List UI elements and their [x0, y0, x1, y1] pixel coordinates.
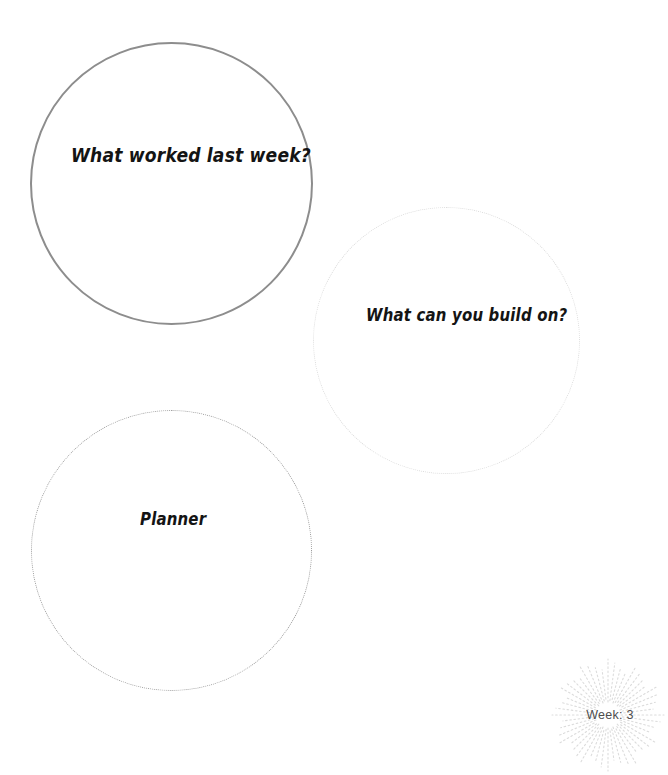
bubble-label-planner: Planner [140, 509, 206, 529]
bubble-label-what-worked-last-week: What worked last week? [71, 144, 311, 167]
bubble-label-what-can-you-build-on: What can you build on? [366, 305, 567, 325]
bubble-what-can-you-build-on[interactable] [313, 207, 580, 474]
bubble-planner[interactable] [31, 410, 312, 691]
week-badge[interactable]: Week: 3 [548, 655, 668, 775]
week-badge-label: Week: 3 [548, 655, 668, 775]
bubble-what-worked-last-week[interactable] [30, 42, 313, 325]
